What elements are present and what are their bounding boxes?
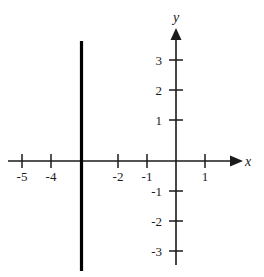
x-tick-label-neg1: -1	[142, 169, 153, 184]
figure-root: 14. -5 -4 -2 -1 1 x	[0, 0, 264, 277]
y-tick-label-neg1: -1	[151, 184, 162, 199]
x-tick-label-neg2: -2	[113, 169, 124, 184]
y-tick-label-neg3: -3	[151, 244, 162, 259]
x-tick-label-neg4: -4	[46, 169, 57, 184]
y-axis-name-label: y	[171, 10, 180, 25]
x-axis-name-label: x	[244, 154, 252, 169]
coordinate-plane-plot: -5 -4 -2 -1 1 x 3 2 1 -1 -2 -3	[0, 0, 264, 277]
x-tick-label-neg5: -5	[17, 169, 28, 184]
y-tick-label-pos3: 3	[156, 53, 163, 68]
y-tick-label-neg2: -2	[151, 214, 162, 229]
plot-background	[0, 0, 264, 277]
y-tick-label-pos2: 2	[156, 83, 163, 98]
y-tick-label-pos1: 1	[156, 113, 163, 128]
x-tick-label-pos1: 1	[202, 169, 209, 184]
